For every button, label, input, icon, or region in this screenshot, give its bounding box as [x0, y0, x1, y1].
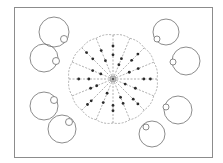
spoke-line [113, 48, 144, 79]
spoke-dot [89, 87, 92, 90]
spoke-dot [99, 73, 102, 76]
spoke-dot [106, 92, 109, 95]
small-circle [51, 97, 58, 104]
spoke-dot [112, 53, 115, 56]
spoke-dot [95, 84, 98, 87]
spoke-dot [122, 102, 125, 105]
small-circle [61, 36, 68, 43]
large-circle [164, 96, 192, 124]
spoke [112, 79, 115, 123]
small-circle [163, 104, 169, 110]
satellite-circles [30, 17, 200, 147]
circle-top-left-1 [39, 17, 69, 47]
circle-top-right-2 [170, 47, 200, 75]
spoke-dot [85, 51, 88, 54]
spoke-dot [117, 63, 120, 66]
spoke-dot [128, 71, 131, 74]
spoke-dot [136, 102, 139, 105]
spoke-dot [136, 53, 139, 56]
circle-top-right-1 [153, 19, 179, 45]
spoke [82, 79, 113, 110]
large-circle [48, 115, 76, 143]
spoke-dot [112, 45, 115, 48]
spoke-dot [77, 78, 80, 81]
circle-bottom-right-1 [163, 96, 192, 124]
spoke-dot [134, 87, 137, 90]
circle-bottom-left-1 [30, 92, 58, 120]
spoke-line [113, 79, 144, 110]
spoke-dot [112, 104, 115, 107]
spoke-dot [149, 78, 152, 81]
spoke-dot [104, 59, 107, 62]
diagram-frame [15, 8, 213, 158]
spoke-dot [137, 67, 140, 70]
spoke-wheel [69, 35, 158, 124]
hub-center [112, 78, 114, 80]
spoke-dot [142, 78, 145, 81]
spoke-dot [119, 96, 122, 99]
spoke-dot [87, 78, 90, 81]
wheel-diagram [0, 0, 223, 163]
spoke [69, 78, 113, 81]
spoke-dot [124, 83, 127, 86]
large-circle [139, 121, 165, 147]
spoke [113, 78, 157, 81]
spoke-dot [90, 99, 93, 102]
circle-bottom-right-2 [139, 121, 165, 147]
spoke-dot [86, 103, 89, 106]
circle-bottom-left-2 [48, 115, 76, 143]
spoke [113, 79, 144, 110]
spoke-dot [100, 49, 103, 52]
spoke-dot [112, 109, 115, 112]
circle-top-left-2 [30, 44, 60, 72]
small-circle [143, 124, 149, 130]
small-circle [66, 119, 73, 126]
small-circle [154, 36, 160, 42]
spoke-dot [102, 101, 105, 104]
spoke-dot [91, 69, 94, 72]
spoke-dot [120, 57, 123, 60]
spoke [112, 35, 115, 79]
spoke [113, 48, 144, 79]
spoke-dot [91, 57, 94, 60]
spoke-dot [130, 59, 133, 62]
small-circle [170, 59, 176, 65]
small-circle [53, 58, 60, 65]
diagram-canvas [0, 0, 223, 163]
spoke-dot [132, 98, 135, 101]
spoke [82, 48, 113, 79]
